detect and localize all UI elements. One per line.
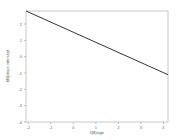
chart-canvas: -2-101234 210-1-2-3-4 f(B)sign f(B)slope… <box>0 0 181 140</box>
x-axis-label: f(B)sign <box>90 130 104 135</box>
y-tick-label: -1 <box>18 71 22 76</box>
x-tick-label: -2 <box>26 125 30 130</box>
y-tick-label: 1 <box>20 38 23 43</box>
x-tick-label: 0 <box>72 125 75 130</box>
y-tick-label: -3 <box>18 103 22 108</box>
x-axis-ticks: -2-101234 <box>26 122 165 130</box>
y-axis-label: f(B)slope intercept <box>5 49 10 82</box>
y-axis-ticks: 210-1-2-3-4 <box>18 22 26 125</box>
y-tick-label: 2 <box>20 22 23 27</box>
y-tick-label: -2 <box>18 87 22 92</box>
x-tick-label: 2 <box>117 125 120 130</box>
plot-frame <box>26 11 168 122</box>
x-tick-label: -1 <box>49 125 53 130</box>
x-tick-label: 4 <box>162 125 165 130</box>
y-tick-label: -4 <box>18 120 22 125</box>
y-tick-label: 0 <box>20 54 23 59</box>
x-tick-label: 3 <box>140 125 143 130</box>
